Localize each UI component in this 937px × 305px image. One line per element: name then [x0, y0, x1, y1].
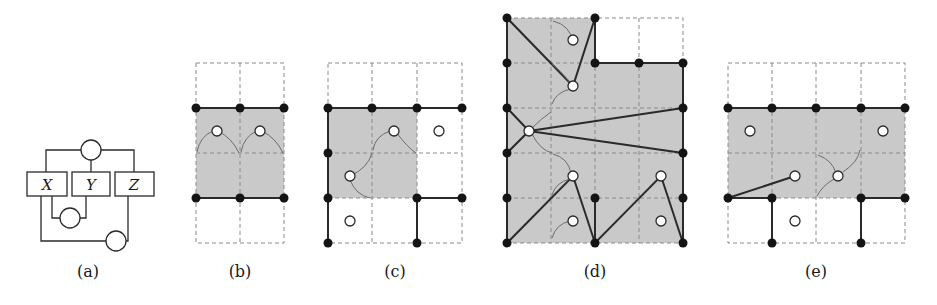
- vertex: [857, 194, 866, 203]
- vertex: [591, 59, 600, 68]
- vertex: [280, 104, 289, 113]
- panel-c-caption: (c): [384, 262, 405, 281]
- vertex: [503, 194, 512, 203]
- vertex: [768, 239, 777, 248]
- hole-marker: [568, 35, 578, 45]
- hole-marker: [345, 216, 355, 226]
- vertex: [503, 149, 512, 158]
- vertex: [591, 14, 600, 23]
- vertex: [812, 104, 821, 113]
- panel-c-grid: [324, 63, 467, 248]
- vertex: [458, 104, 467, 113]
- vertex: [236, 194, 245, 203]
- panel-d-caption: (d): [584, 262, 607, 281]
- vertex: [768, 104, 777, 113]
- vertex: [192, 194, 201, 203]
- hole-marker: [790, 171, 800, 181]
- vertex: [724, 104, 733, 113]
- panel-a-factor-graph: X Y Z: [27, 140, 154, 251]
- hole-marker: [568, 81, 578, 91]
- vertex: [857, 104, 866, 113]
- vertex: [503, 14, 512, 23]
- vertex: [236, 104, 245, 113]
- boundary-edge: [728, 198, 772, 243]
- vertex: [679, 239, 688, 248]
- vertex: [591, 239, 600, 248]
- vertex: [413, 194, 422, 203]
- vertex: [280, 194, 289, 203]
- vertex: [857, 239, 866, 248]
- vertex: [413, 104, 422, 113]
- vertex: [679, 59, 688, 68]
- factor-node-middle: [60, 208, 80, 228]
- variable-label-z: Z: [128, 176, 140, 194]
- panel-b-caption: (b): [229, 262, 252, 281]
- wire-x-mid: [52, 196, 60, 218]
- hole-marker: [255, 126, 265, 136]
- hole-marker: [212, 126, 222, 136]
- hole-marker: [745, 126, 755, 136]
- hole-marker: [568, 171, 578, 181]
- hole-marker: [790, 216, 800, 226]
- hole-marker: [878, 126, 888, 136]
- vertex: [324, 104, 333, 113]
- figure: X Y Z (a) (b): [0, 0, 937, 305]
- vertex: [413, 239, 422, 248]
- hole-marker: [524, 126, 534, 136]
- variable-label-x: X: [41, 176, 54, 194]
- panel-e-grid: [724, 63, 910, 248]
- wire-x-top: [46, 150, 81, 172]
- vertex: [324, 149, 333, 158]
- wire-y-mid: [80, 196, 86, 218]
- panel-a-caption: (a): [77, 262, 99, 281]
- wire-z-top: [101, 150, 134, 172]
- hole-marker: [656, 171, 666, 181]
- panel-e-caption: (e): [805, 262, 827, 281]
- vertex: [679, 194, 688, 203]
- panel-b-grid: [192, 63, 289, 243]
- vertex: [503, 104, 512, 113]
- vertex: [635, 59, 644, 68]
- vertex: [724, 194, 733, 203]
- vertex: [591, 194, 600, 203]
- vertex: [679, 104, 688, 113]
- hole-marker: [389, 126, 399, 136]
- vertex: [324, 239, 333, 248]
- panel-d-grid: [503, 14, 688, 248]
- factor-node-top: [81, 140, 101, 160]
- hole-marker: [833, 171, 843, 181]
- hole-marker: [568, 216, 578, 226]
- vertex: [679, 149, 688, 158]
- wire-z-bottom: [126, 196, 128, 241]
- vertex: [458, 194, 467, 203]
- hole-marker: [656, 216, 666, 226]
- vertex: [192, 104, 201, 113]
- vertex: [324, 194, 333, 203]
- vertex: [768, 194, 777, 203]
- boundary-edge: [861, 198, 905, 243]
- vertex: [503, 239, 512, 248]
- vertex: [901, 194, 910, 203]
- vertex: [368, 104, 377, 113]
- factor-node-bottom: [106, 231, 126, 251]
- vertex: [503, 59, 512, 68]
- hole-marker: [345, 171, 355, 181]
- boundary-edge: [417, 198, 462, 243]
- hole-marker: [434, 126, 444, 136]
- vertex: [901, 104, 910, 113]
